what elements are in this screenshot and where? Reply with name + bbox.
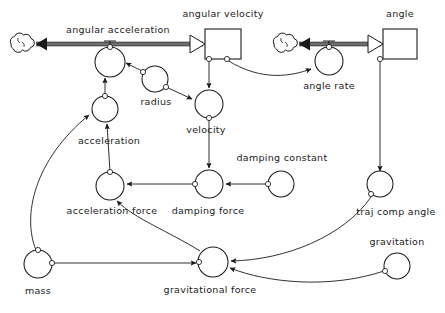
aux-gravitational-force[interactable] <box>196 247 228 277</box>
port-acceleration-force-top <box>107 169 112 174</box>
aux-label-damping-force: damping force <box>172 205 245 216</box>
port-angular-acceleration-top <box>107 44 112 49</box>
port-mass-right <box>49 260 54 265</box>
port-angle-bottom <box>377 56 382 61</box>
diagram-canvas: angular velocity angle angular accelerat… <box>0 0 445 313</box>
stock-angle[interactable] <box>377 29 417 62</box>
port-traj-comp-angle-lower-left <box>368 191 373 196</box>
aux-velocity[interactable] <box>195 90 223 121</box>
port-angle-rate-top <box>326 44 331 49</box>
port-damping-force-left <box>192 181 197 186</box>
cloud-right-icon <box>273 33 297 52</box>
aux-label-damping-constant: damping constant <box>237 152 328 163</box>
system-dynamics-diagram: angular velocity angle angular accelerat… <box>0 0 445 313</box>
flow-angular-acceleration[interactable] <box>36 35 205 53</box>
link-traj-comp-angle-to-gravitational-force <box>231 197 371 261</box>
aux-label-gravitational-force: gravitational force <box>164 284 257 295</box>
aux-traj-comp-angle[interactable] <box>367 171 393 197</box>
aux-radius[interactable] <box>140 66 168 92</box>
aux-damping-constant[interactable] <box>265 171 294 197</box>
aux-label-traj-comp-angle: traj comp angle <box>356 206 435 217</box>
aux-acceleration[interactable] <box>92 93 118 122</box>
flow-inlet-arrow-angular-velocity <box>190 35 205 53</box>
aux-gravitation[interactable] <box>382 253 410 279</box>
aux-label-acceleration-force: acceleration force <box>67 205 158 216</box>
aux-label-gravitation: gravitation <box>369 236 424 247</box>
flow-inlet-arrow-angle <box>368 35 383 53</box>
link-gravitation-to-gravitational-force <box>230 268 384 282</box>
flow-arrowhead-angle-rate <box>299 38 310 51</box>
port-angular-velocity-bottom-right <box>224 56 229 61</box>
port-damping-constant-left <box>265 181 270 186</box>
flow-label-angular-acceleration: angular acceleration <box>66 24 170 35</box>
stock-label-angular-velocity: angular velocity <box>182 8 263 19</box>
aux-mass[interactable] <box>24 247 55 278</box>
aux-acceleration-force[interactable] <box>96 169 124 200</box>
port-acceleration-top <box>102 93 107 98</box>
cloud-left-icon <box>10 33 34 52</box>
port-gravitational-force-left <box>196 259 201 264</box>
aux-label-velocity: velocity <box>186 124 226 135</box>
aux-damping-force[interactable] <box>192 170 223 198</box>
aux-angle-rate[interactable] <box>315 44 343 75</box>
link-acceleration-force-to-acceleration <box>107 124 110 172</box>
port-velocity-bottom <box>206 115 211 120</box>
port-mass-top <box>35 247 40 252</box>
stock-label-angle: angle <box>386 8 414 19</box>
aux-label-mass: mass <box>25 285 51 296</box>
link-angular-velocity-to-angle-rate <box>227 60 311 75</box>
aux-angular-acceleration[interactable] <box>95 44 125 77</box>
stock-angular-velocity[interactable] <box>205 29 241 62</box>
aux-label-radius: radius <box>140 96 171 107</box>
flow-angle-rate[interactable] <box>299 35 383 53</box>
port-angular-velocity-bottom <box>206 56 211 61</box>
port-gravitation-lower-left <box>382 268 387 273</box>
flow-label-angle-rate: angle rate <box>303 80 355 91</box>
flow-arrowhead-angular-acceleration <box>36 38 47 51</box>
port-radius-lower-right <box>163 84 168 89</box>
aux-label-acceleration: acceleration <box>78 135 140 146</box>
port-radius-upper-left <box>140 69 145 74</box>
